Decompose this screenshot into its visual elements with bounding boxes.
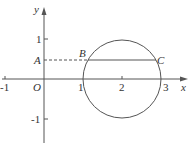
point-b-label: B — [79, 47, 86, 59]
y-tick-label-1: 1 — [36, 33, 42, 45]
y-axis-arrow-icon — [42, 7, 47, 15]
coordinate-diagram: y x O A B C -1 1 2 3 1 -1 — [0, 0, 191, 146]
x-axis-label: x — [180, 81, 186, 93]
x-tick-label-1: 1 — [78, 81, 84, 93]
y-axis-label: y — [33, 3, 39, 15]
x-tick-label-2: 2 — [119, 81, 125, 93]
x-tick-label-neg1: -1 — [0, 81, 9, 93]
point-c-label: C — [157, 54, 165, 66]
y-tick-label-neg1: -1 — [31, 113, 40, 125]
point-a-label: A — [33, 54, 41, 66]
x-tick-label-3: 3 — [163, 81, 169, 93]
origin-label: O — [33, 81, 41, 93]
